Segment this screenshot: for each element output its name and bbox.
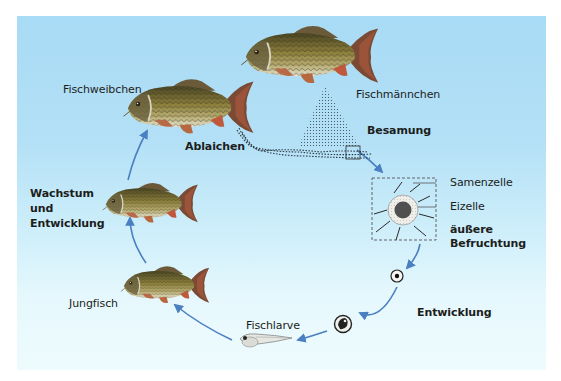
fish-larva-icon <box>240 334 292 347</box>
label-besamung: Besamung <box>367 124 431 137</box>
fertilized-egg-detail-icon <box>372 178 436 240</box>
label-wachstum: Wachstum <box>30 187 94 200</box>
arrow-besamung-to-befruchtung <box>357 150 382 172</box>
arrow-embryo-to-larva <box>298 331 327 340</box>
label-wachstum-entwicklung: Entwicklung <box>30 217 105 230</box>
label-entwicklung: Entwicklung <box>417 306 492 319</box>
label-und: und <box>30 202 53 215</box>
arrow-befruchtung-to-egg <box>407 244 420 268</box>
embryo-egg-icon <box>335 316 352 333</box>
label-jungfisch: Jungfisch <box>69 297 118 310</box>
label-fischlarve: Fischlarve <box>246 319 300 332</box>
label-aeussere: äußere <box>450 223 493 236</box>
label-fischweibchen: Fischweibchen <box>63 83 142 96</box>
arrow-egg-to-embryo <box>360 287 397 315</box>
label-eizelle: Eizelle <box>450 200 485 213</box>
male-carp-icon <box>241 26 378 83</box>
label-fischmaennchen: Fischmännchen <box>356 88 440 101</box>
developing-egg-icon <box>391 270 403 282</box>
label-befruchtung: Befruchtung <box>450 237 526 250</box>
female-carp-icon <box>124 79 254 133</box>
arrow-larva-to-jungfisch <box>175 305 232 340</box>
arrow-growth-to-weibchen <box>128 131 147 180</box>
label-samenzelle: Samenzelle <box>450 176 513 189</box>
arrow-jungfisch-to-growth <box>130 218 146 263</box>
young-carp-icon <box>121 266 209 303</box>
label-ablaichen: Ablaichen <box>185 140 245 153</box>
growing-carp-icon <box>103 183 198 223</box>
